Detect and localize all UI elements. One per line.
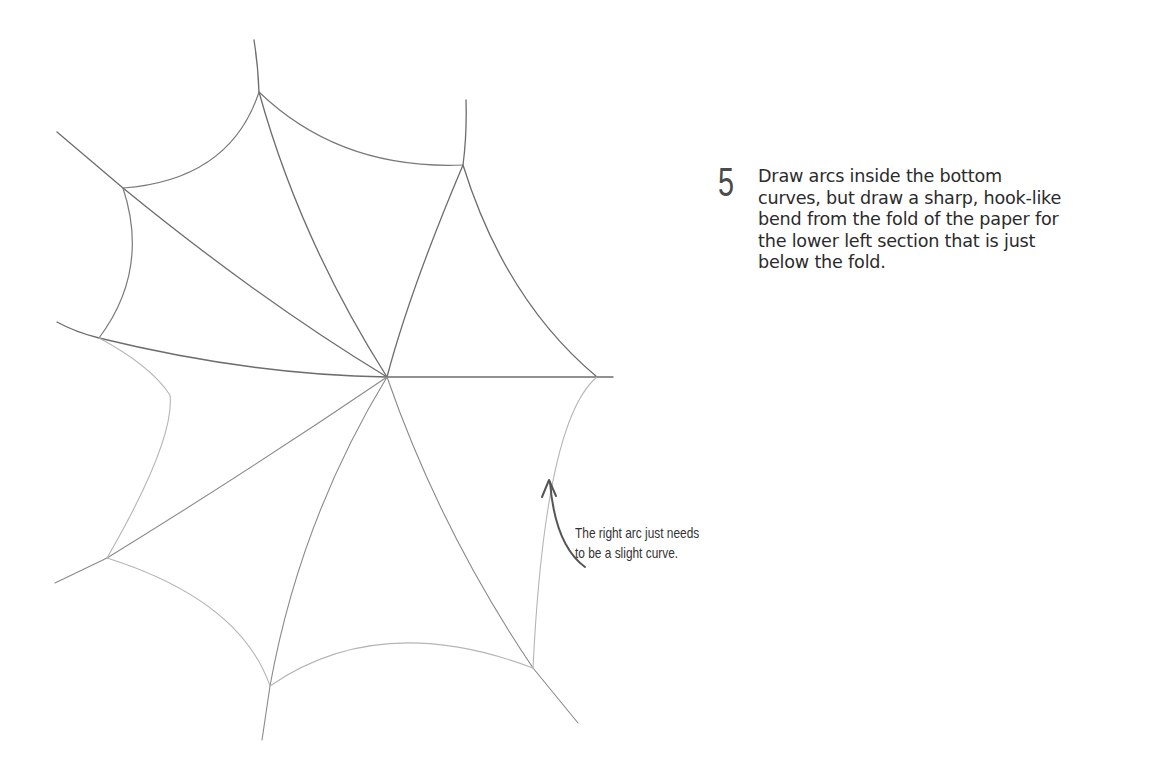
annotation-line-2: to be a slight curve. [575, 543, 699, 563]
spider-web-drawing [0, 0, 1173, 773]
web-arcs-lower [99, 338, 597, 686]
annotation-note: The right arc just needs to be a slight … [575, 523, 699, 563]
step-instruction: Draw arcs inside the bottom curves, but … [758, 166, 1068, 274]
annotation-line-1: The right arc just needs [575, 523, 699, 543]
web-spokes-upper [57, 40, 613, 377]
web-spokes-lower [55, 377, 578, 740]
step-number: 5 [718, 162, 734, 202]
web-arcs-upper [99, 92, 463, 338]
